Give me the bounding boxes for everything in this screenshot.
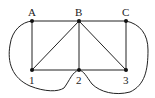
- node-3: [124, 68, 128, 72]
- node-label-A: A: [28, 7, 36, 18]
- node-C: [124, 19, 128, 23]
- node-label-C: C: [122, 7, 129, 18]
- node-label-B: B: [75, 7, 82, 18]
- node-label-2: 2: [76, 75, 82, 86]
- node-2: [77, 68, 81, 72]
- edge-B-1: [32, 21, 79, 70]
- node-label-1: 1: [29, 75, 35, 86]
- edge-B-3: [79, 21, 126, 70]
- node-B: [77, 19, 81, 23]
- node-label-3: 3: [123, 75, 129, 86]
- node-1: [30, 68, 34, 72]
- node-A: [30, 19, 34, 23]
